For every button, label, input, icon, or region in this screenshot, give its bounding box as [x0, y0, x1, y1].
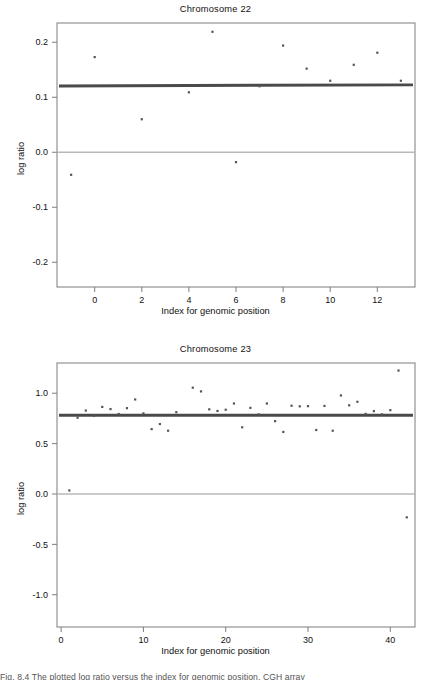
- chromosome-22-data-point: [141, 118, 143, 120]
- chromosome-23-x-tick-label: 10: [138, 635, 148, 645]
- chromosome-23-data-point: [134, 398, 136, 400]
- chromosome-22-y-tick-label: 0.0: [35, 147, 48, 157]
- chromosome-22-y-tick-label: -0.1: [32, 202, 48, 212]
- chromosome-23-x-tick-label: 0: [59, 635, 64, 645]
- chromosome-22-data-point: [235, 161, 237, 163]
- chromosome-23-data-point: [109, 408, 111, 410]
- chromosome-23-data-point: [76, 417, 78, 419]
- chromosome-22-y-tick-label: 0.2: [35, 37, 48, 47]
- chromosome-23-data-point: [365, 413, 367, 415]
- chromosome-22-data-point: [306, 68, 308, 70]
- chromosome-22-y-tick-label: -0.2: [32, 257, 48, 267]
- chart-panel-chromosome-23: Chromosome 23 log ratio Index for genomi…: [0, 340, 431, 660]
- chromosome-23-data-point: [373, 410, 375, 412]
- chromosome-23-plot-frame: [57, 363, 415, 627]
- chromosome-22-data-point: [376, 52, 378, 54]
- chromosome-23-x-tick-label: 40: [385, 635, 395, 645]
- chromosome-23-data-point: [323, 405, 325, 407]
- chromosome-23-data-point: [151, 428, 153, 430]
- chromosome-23-data-point: [282, 431, 284, 433]
- chromosome-22-data-point: [282, 44, 284, 46]
- chromosome-22-y-tick-label: 0.1: [35, 92, 48, 102]
- chromosome-22-data-point: [211, 31, 213, 33]
- chromosome-23-data-point: [315, 429, 317, 431]
- chromosome-22-data-point: [353, 64, 355, 66]
- chromosome-23-data-point: [85, 409, 87, 411]
- chromosome-22-plot-frame: [57, 23, 415, 287]
- chromosome-22-x-tick-label: 12: [372, 295, 382, 305]
- chromosome-23-data-point: [192, 387, 194, 389]
- chromosome-23-x-tick-label: 20: [221, 635, 231, 645]
- chromosome-23-y-tick-label: 1.0: [35, 388, 48, 398]
- chromosome-23-data-point: [258, 413, 260, 415]
- chromosome-23-data-point: [274, 420, 276, 422]
- chromosome-23-data-point: [175, 411, 177, 413]
- chromosome-23-data-point: [307, 405, 309, 407]
- chromosome-23-data-point: [208, 408, 210, 410]
- chromosome-22-x-tick-label: 0: [92, 295, 97, 305]
- chromosome-23-data-point: [101, 406, 103, 408]
- chromosome-23-data-point: [290, 405, 292, 407]
- chromosome-23-data-point: [249, 407, 251, 409]
- chromosome-23-data-point: [167, 430, 169, 432]
- chromosome-22-data-point: [400, 80, 402, 82]
- chromosome-22-x-tick-label: 6: [233, 295, 238, 305]
- chromosome-23-x-tick-label: 30: [303, 635, 313, 645]
- chromosome-23-y-tick-label: 0.0: [35, 489, 48, 499]
- chromosome-23-data-point: [397, 369, 399, 371]
- chromosome-23-y-tick-label: 0.5: [35, 439, 48, 449]
- chromosome-22-segment-mean-line: [59, 85, 413, 86]
- chart-panel-chromosome-22: Chromosome 22 log ratio Index for genomi…: [0, 0, 431, 320]
- plot-area-chromosome-23: -1.0-0.50.00.51.0010203040: [0, 340, 431, 660]
- chromosome-23-data-point: [126, 407, 128, 409]
- chromosome-23-data-point: [356, 401, 358, 403]
- chromosome-23-data-point: [93, 415, 95, 417]
- chromosome-23-data-point: [348, 404, 350, 406]
- chromosome-22-data-point: [94, 56, 96, 58]
- chromosome-22-x-tick-label: 10: [325, 295, 335, 305]
- chromosome-23-y-tick-label: -1.0: [32, 590, 48, 600]
- chromosome-23-data-point: [340, 394, 342, 396]
- chromosome-23-data-point: [200, 390, 202, 392]
- chromosome-23-data-point: [233, 402, 235, 404]
- figure-cgh-log-ratio-panels: Chromosome 22 log ratio Index for genomi…: [0, 0, 431, 680]
- chromosome-23-data-point: [68, 489, 70, 491]
- chromosome-23-data-point: [381, 413, 383, 415]
- chromosome-22-data-point: [188, 91, 190, 93]
- chromosome-23-y-tick-label: -0.5: [32, 540, 48, 550]
- chromosome-23-data-point: [159, 423, 161, 425]
- chromosome-23-data-point: [332, 430, 334, 432]
- chromosome-23-data-point: [118, 413, 120, 415]
- chromosome-22-data-point: [329, 80, 331, 82]
- plot-area-chromosome-22: -0.2-0.10.00.10.2024681012: [0, 0, 431, 320]
- chromosome-22-x-tick-label: 2: [139, 295, 144, 305]
- chromosome-22-data-point: [258, 85, 260, 87]
- chromosome-23-data-point: [225, 409, 227, 411]
- figure-caption: Fig. 8.4 The plotted log ratio versus th…: [0, 672, 431, 680]
- chromosome-22-x-tick-label: 8: [281, 295, 286, 305]
- chromosome-23-data-point: [266, 402, 268, 404]
- chromosome-23-data-point: [216, 410, 218, 412]
- chromosome-22-x-tick-label: 4: [186, 295, 191, 305]
- chromosome-23-data-point: [299, 405, 301, 407]
- chromosome-23-data-point: [406, 516, 408, 518]
- chromosome-23-data-point: [241, 426, 243, 428]
- chromosome-23-data-point: [142, 412, 144, 414]
- chromosome-22-data-point: [70, 174, 72, 176]
- chromosome-23-data-point: [389, 409, 391, 411]
